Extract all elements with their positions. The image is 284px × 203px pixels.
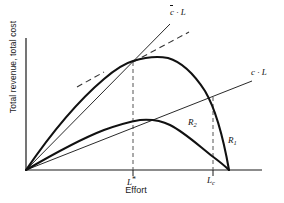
x-tick-label-l-c: Lc	[207, 176, 215, 187]
cost-line-high-suffix: · L	[174, 7, 186, 17]
tick-star-mark: *	[132, 175, 136, 184]
cost-line-low-suffix: · L	[255, 67, 267, 77]
cost-line-c-l-label: c · L	[251, 68, 267, 77]
r1-subscript: 1	[234, 139, 237, 146]
cost-line-c-bar-l	[26, 24, 170, 170]
revenue-curve-r2-label: R2	[188, 118, 197, 129]
r2-subscript: 2	[194, 121, 197, 128]
y-axis-label: Total revenue, total cost	[8, 7, 18, 127]
chart-canvas	[0, 0, 284, 203]
x-tick-label-l-star: L*	[127, 176, 136, 187]
overbar-mark	[170, 5, 173, 6]
c-with-overbar: c	[170, 8, 174, 17]
tick-subscript-c: c	[212, 179, 215, 186]
cost-line-c-bar-l-label: c · L	[170, 8, 186, 17]
revenue-curve-r1-label: R1	[228, 136, 237, 147]
figure-container: Total revenue, total cost Effort L* Lc c…	[0, 0, 284, 203]
tangent-stub-dashed	[77, 72, 104, 87]
